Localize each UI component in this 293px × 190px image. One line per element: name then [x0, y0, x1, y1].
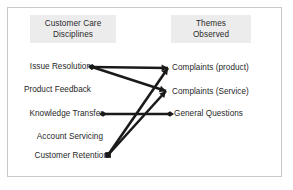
node-label-issue-resolution[interactable]: Issue Resolution [30, 62, 91, 72]
column-header-themes: Themes Observed [171, 15, 251, 43]
node-label-knowledge-transfer[interactable]: Knowledge Transfer [29, 109, 103, 119]
node-label-complaints-service[interactable]: Complaints (Service) [172, 87, 249, 97]
diagram-root: Customer Care Disciplines Themes Observe… [0, 0, 293, 190]
column-header-disciplines: Customer Care Disciplines [30, 15, 116, 43]
node-label-general-questions[interactable]: General Questions [174, 109, 243, 119]
column-header-disciplines-line1: Customer Care [30, 18, 116, 29]
node-label-complaints-product[interactable]: Complaints (product) [172, 63, 249, 73]
column-header-disciplines-line2: Disciplines [30, 29, 116, 40]
node-label-account-servicing[interactable]: Account Servicing [37, 132, 103, 142]
node-label-customer-retention[interactable]: Customer Retention [34, 151, 108, 161]
column-header-themes-line2: Observed [171, 29, 251, 40]
node-label-product-feedback[interactable]: Product Feedback [24, 85, 91, 95]
column-header-themes-line1: Themes [171, 18, 251, 29]
